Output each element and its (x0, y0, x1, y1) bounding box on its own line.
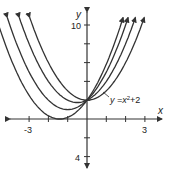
x-tick-label-neg3: -3 (24, 125, 32, 135)
parabola-diagram: y x -3 3 10 4 y =x2+2 (0, 0, 172, 177)
y-axis-label: y (75, 9, 82, 20)
curve-label-leader (103, 92, 109, 97)
x-axis-label: x (157, 105, 164, 116)
axes (10, 12, 162, 168)
x-tick-label-3: 3 (142, 125, 147, 135)
parabola-curve (0, 18, 123, 120)
curve-label: y =x2+2 (109, 95, 140, 105)
y-tick-label-neg4: 4 (75, 153, 80, 163)
y-tick-label-10: 10 (71, 21, 81, 31)
